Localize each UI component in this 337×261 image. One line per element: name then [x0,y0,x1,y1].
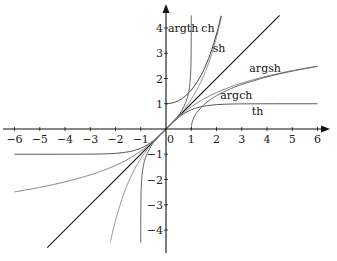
curve-label-th: th [252,105,264,118]
y-tick-label: 1 [156,98,163,111]
y-tick-label: 4 [156,22,163,35]
axes-group: −6−5−4−3−2−1123456 −4−3−2−11234 0 [3,4,330,253]
y-tick-label: −3 [147,199,163,212]
x-tick-label: −5 [32,133,48,146]
x-tick-label: −6 [6,133,22,146]
x-tick-label: 3 [238,133,245,146]
curve-label-sh: sh [213,42,226,55]
x-tick-label: 5 [289,133,296,146]
curve-label-argth: argth [168,22,198,35]
y-tick-label: −2 [147,174,163,187]
origin-label: 0 [167,133,174,146]
x-tick-label: 4 [264,133,271,146]
x-tick-label: −2 [107,133,123,146]
curve-argch [191,66,317,129]
y-tick-label: 3 [156,47,163,60]
y-tick-label: −4 [147,224,163,237]
hyperbolic-functions-chart: −6−5−4−3−2−1123456 −4−3−2−11234 0 argthc… [0,0,337,261]
x-tick-label: 6 [314,133,321,146]
x-tick-label: 1 [188,133,195,146]
x-axis-arrow-icon [321,126,330,133]
y-tick-label: 2 [156,73,163,86]
x-tick-label: −3 [82,133,98,146]
x-tick-label: 2 [213,133,220,146]
curve-label-argch: argch [220,89,252,102]
x-ticks: −6−5−4−3−2−1123456 [6,127,321,146]
y-tick-label: −1 [147,148,163,161]
y-axis-arrow-icon [163,4,170,13]
x-tick-label: −4 [57,133,73,146]
curve-label-ch: ch [201,22,214,35]
curve-label-argsh: argsh [249,62,281,75]
x-tick-label: −1 [133,133,149,146]
